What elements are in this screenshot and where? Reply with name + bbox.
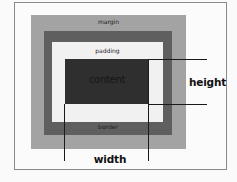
padding-label: padding [52, 47, 163, 55]
height-guide-top-line [149, 59, 207, 60]
height-label: height [189, 75, 226, 89]
width-label: width [90, 152, 130, 166]
height-guide-bottom-line [149, 104, 207, 105]
width-guide-left-line [64, 104, 65, 161]
width-guide-right-line [148, 59, 149, 161]
content-label: content [65, 73, 149, 87]
margin-label: margin [31, 18, 186, 26]
